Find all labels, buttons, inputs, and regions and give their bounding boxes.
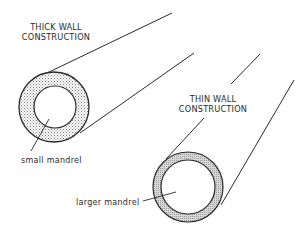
small-mandrel-label: small mandrel	[21, 156, 82, 166]
thin-wall-title: THIN WALL CONSTRUCTION	[177, 94, 249, 114]
larger-mandrel-label: larger mandrel	[76, 198, 139, 208]
thick-tube-inner-circle	[34, 86, 76, 128]
thick-wall-title-line2: CONSTRUCTION	[20, 32, 92, 42]
tube-wall-diagram: THICK WALL CONSTRUCTION THIN WALL CONSTR…	[0, 0, 308, 236]
thick-wall-title-line1: THICK WALL	[20, 22, 92, 32]
thick-tube-lower-edge	[80, 53, 194, 133]
thin-wall-title-line1: THIN WALL	[177, 94, 249, 104]
thick-wall-title: THICK WALL CONSTRUCTION	[20, 22, 92, 42]
thin-tube-inner-circle	[161, 160, 215, 214]
thin-wall-title-line2: CONSTRUCTION	[177, 104, 249, 114]
thin-wall-tube	[143, 54, 294, 222]
thin-tube-upper-edge-top	[231, 54, 260, 84]
